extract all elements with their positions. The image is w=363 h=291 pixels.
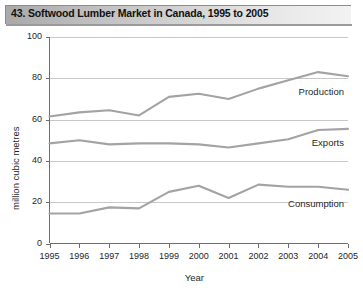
- series-label-consumption: Consumption: [288, 198, 344, 209]
- gridlines-group: [50, 38, 349, 203]
- x-tick-label: 2005: [328, 251, 363, 261]
- series-line-exports: [50, 129, 349, 148]
- y-tick-label: 80: [8, 72, 42, 82]
- series-label-exports: Exports: [312, 137, 344, 148]
- x-axis-title: Year: [185, 272, 204, 283]
- y-tick-label: 100: [8, 31, 42, 41]
- y-axis-title: million cubic metres: [10, 127, 21, 210]
- y-tick-label: 0: [8, 238, 42, 248]
- series-label-production: Production: [299, 86, 344, 97]
- y-tick-label: 60: [8, 114, 42, 124]
